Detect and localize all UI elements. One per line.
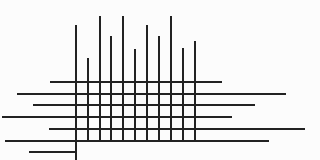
horizontal-line bbox=[2, 116, 232, 118]
vertical-line bbox=[99, 16, 101, 141]
vertical-line bbox=[194, 41, 196, 141]
line-grid-diagram bbox=[0, 0, 320, 160]
horizontal-line bbox=[33, 104, 255, 106]
vertical-line bbox=[146, 25, 148, 141]
horizontal-line bbox=[17, 93, 286, 95]
vertical-line bbox=[134, 49, 136, 141]
horizontal-line bbox=[50, 81, 222, 83]
vertical-line bbox=[122, 16, 124, 141]
vertical-line bbox=[170, 16, 172, 141]
horizontal-line bbox=[5, 140, 269, 142]
vertical-line bbox=[110, 36, 112, 141]
horizontal-line bbox=[49, 128, 305, 130]
vertical-line bbox=[158, 36, 160, 141]
horizontal-line bbox=[29, 151, 76, 153]
